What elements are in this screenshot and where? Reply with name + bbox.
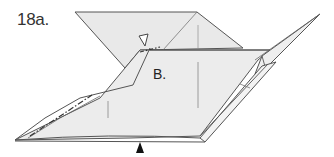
bottom-edge-lower bbox=[15, 141, 205, 142]
right-spike-inner bbox=[255, 14, 320, 60]
fold-illustration bbox=[0, 0, 334, 157]
black-triangle-arrow-icon bbox=[136, 142, 144, 153]
point-b-label: B. bbox=[153, 66, 166, 82]
